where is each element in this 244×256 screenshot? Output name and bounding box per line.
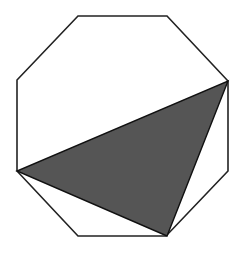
octagon-diagram [0,0,244,256]
